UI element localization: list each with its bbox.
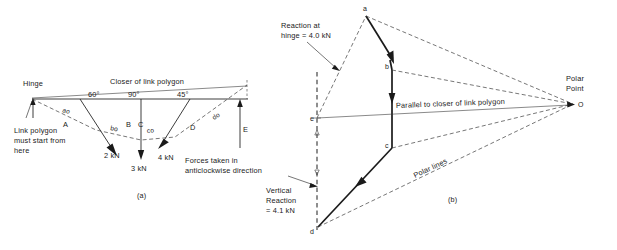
vertical-reaction-note-line2: Reaction: [266, 196, 296, 205]
force-label-3kn: 3 kN: [131, 164, 147, 173]
polar-ray-oa: [366, 16, 573, 104]
space-label-d: D: [190, 123, 196, 132]
space-label-a: A: [63, 120, 68, 129]
force-polygon-vector-cd: [318, 148, 392, 227]
parallel-to-closer-label: Parallel to closer of link polygon: [396, 97, 505, 110]
right-reaction-arrow: [237, 99, 243, 148]
space-label-e: E: [243, 125, 248, 134]
panel-a-caption: (a): [137, 191, 146, 200]
vertex-label-a: a: [363, 5, 367, 12]
reaction-hinge-note-line2: hinge = 4.0 kN: [281, 31, 331, 40]
hinge-reaction-arrow: [30, 98, 35, 118]
force-label-2kn: 2 kN: [104, 151, 120, 160]
force-vector-3kn: [138, 99, 144, 160]
start-note-line1: Link polygon: [14, 126, 57, 135]
ray-label-bo: bo: [110, 124, 119, 132]
reaction-hinge-leader: [307, 42, 340, 71]
label-closer-of-link-polygon: Closer of link polygon: [110, 77, 184, 86]
engineering-diagram: Hinge Closer of link polygon 60° 90° 45°…: [0, 0, 617, 250]
vertex-label-e: e: [310, 115, 314, 122]
ray-label-ao: ao: [62, 106, 71, 115]
vertex-label-c: c: [385, 142, 389, 149]
ray-label-do: do: [211, 111, 221, 121]
vertical-reaction-note-line1: Vertical: [266, 186, 292, 195]
force-vector-4kn: [158, 99, 190, 149]
direction-note-line2: anticlockwise direction: [185, 166, 262, 175]
panel-a: Hinge Closer of link polygon 60° 90° 45°…: [14, 77, 262, 200]
reaction-hinge-note-line1: Reaction at: [281, 21, 320, 30]
vertex-label-d: d: [310, 228, 314, 235]
angle-label-60: 60°: [88, 90, 100, 99]
angle-label-90: 90°: [128, 90, 140, 99]
vertex-label-b: b: [385, 63, 389, 70]
polar-lines-label: Polar lines: [412, 156, 449, 180]
ray-label-co: co: [146, 126, 154, 134]
force-polygon-vector-bc: [389, 70, 396, 148]
direction-note-line1: Forces taken in: [185, 156, 238, 165]
force-label-4kn: 4 kN: [158, 153, 174, 162]
vertical-reaction-note-line3: = 4.1 kN: [266, 206, 295, 215]
force-polygon-vector-ab: [366, 16, 394, 70]
start-note-line2: must start from: [14, 136, 66, 145]
panel-b: Reaction at hinge = 4.0 kN Vertical Reac…: [266, 5, 584, 235]
label-hinge: Hinge: [23, 79, 43, 88]
start-note-line3: here: [14, 146, 29, 155]
pole-label-o: O: [578, 101, 584, 108]
space-label-b: B: [126, 120, 131, 129]
panel-b-caption: (b): [448, 195, 457, 204]
polar-point-label-line1: Polar: [566, 74, 584, 83]
polar-point-label-line2: Point: [566, 84, 584, 93]
angle-label-45: 45°: [177, 90, 189, 99]
vertical-reaction-leader: [288, 176, 318, 188]
space-label-c: C: [138, 120, 144, 129]
figure-canvas: Hinge Closer of link polygon 60° 90° 45°…: [0, 0, 617, 250]
start-note-leader: [26, 101, 32, 118]
polar-ray-oc: [392, 104, 573, 148]
